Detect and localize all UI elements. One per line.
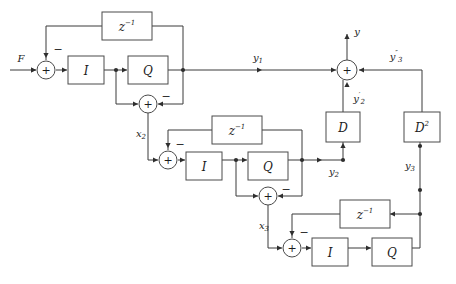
node-y3-fb (418, 212, 422, 216)
arrow-sum-out-left (331, 67, 336, 72)
summer-sum-output: + (337, 60, 357, 80)
block-diff2: D2 (404, 112, 440, 142)
plus-sign-sum-output: + (342, 64, 351, 77)
node-int2-tap (234, 158, 238, 162)
arrow-y2p-into-sum (344, 82, 349, 87)
arrow-fb3-into-sum (289, 231, 294, 236)
signal-input-F: F (17, 53, 26, 64)
arrow-quant3-in (366, 245, 371, 250)
summer-sum-input-2: +− (159, 138, 185, 169)
plus-sign-sum-input-3: + (287, 242, 296, 255)
block-quant3: Q (372, 238, 412, 266)
minus-sign-sum-input-2-0: − (175, 138, 184, 151)
block-label-quant2: Q (263, 160, 273, 174)
node-y2-corner (341, 158, 345, 162)
node-q2-out (300, 158, 304, 162)
block-quant1: Q (128, 56, 168, 84)
node-y3-mid (418, 188, 422, 192)
block-delay2: z−1 (212, 116, 262, 144)
minus-sign-sum-input-1-0: − (53, 43, 62, 56)
block-label-diff1: D (337, 121, 348, 135)
arrow-y3dp-into-sum (359, 67, 364, 72)
block-int3: I (312, 238, 348, 266)
arrow-err1-left-in (133, 101, 138, 106)
arrow-sum2-in (153, 157, 158, 162)
minus-sign-sum-error-2-0: − (281, 183, 290, 196)
block-label-int3: I (327, 246, 333, 260)
arrow-y1-mid (257, 67, 262, 72)
arrow-int1-in (62, 67, 67, 72)
node-q1-out (181, 68, 185, 72)
signal-label-x2: x2 (136, 128, 147, 141)
arrow-y2-mid (317, 157, 322, 162)
block-int2: I (186, 152, 222, 180)
plus-sign-sum-input-2: + (163, 154, 172, 167)
block-diff1: D (326, 112, 360, 142)
block-label-int2: I (201, 160, 207, 174)
arrow-err2-left-in (253, 193, 258, 198)
blocks-layer: z−1IQz−1IQz−1IQDD2 (68, 12, 440, 266)
summer-sum-input-1: +− (37, 43, 63, 79)
plus-sign-sum-error-2: + (263, 190, 272, 203)
block-delay3: z−1 (340, 200, 390, 228)
signal-label-y3: y3 (404, 160, 416, 173)
plus-sign-sum-error-1: + (143, 98, 152, 111)
signal-label-y3dprime: y″3 (389, 49, 403, 64)
summer-sum-error-2: +− (259, 183, 291, 205)
signal-label-y2: y2 (328, 166, 340, 179)
block-quant2: Q (248, 152, 288, 180)
arrow-fb1-into-sum (43, 53, 48, 58)
node-y3-d2 (418, 144, 422, 148)
block-diagram-canvas: z−1IQz−1IQz−1IQDD2 +−+−+−+−+−+ Fx2x3y1yy… (0, 0, 456, 284)
block-delay1: z−1 (102, 12, 152, 40)
arrow-y2-into-D (340, 143, 345, 148)
arrow-fb3-into-z (390, 211, 395, 216)
diagram-svg: z−1IQz−1IQz−1IQDD2 +−+−+−+−+−+ Fx2x3y1yy… (0, 0, 456, 284)
node-int1-tap (114, 68, 118, 72)
arrow-int2-in (180, 157, 185, 162)
signal-label-y2prime: y′2 (352, 91, 365, 106)
arrow-int3-in (306, 245, 311, 250)
signal-label-y: y (353, 26, 360, 37)
arrow-sum1-in (31, 67, 36, 72)
summer-sum-input-3: +− (283, 226, 309, 257)
block-int1: I (68, 56, 104, 84)
block-label-quant1: Q (143, 64, 153, 78)
signal-label-y1: y1 (252, 52, 263, 65)
block-label-quant3: Q (387, 246, 397, 260)
minus-sign-sum-input-3-0: − (299, 226, 308, 239)
arrow-fb2-into-sum (165, 143, 170, 148)
minus-sign-sum-error-1-0: − (161, 90, 170, 103)
arrow-sum3-in (277, 245, 282, 250)
arrow-quant1-in (122, 67, 127, 72)
arrow-y-out (344, 34, 349, 39)
block-label-int1: I (83, 64, 89, 78)
plus-sign-sum-input-1: + (41, 64, 50, 77)
summer-sum-error-1: +− (139, 90, 171, 113)
arrow-quant2-in (242, 157, 247, 162)
